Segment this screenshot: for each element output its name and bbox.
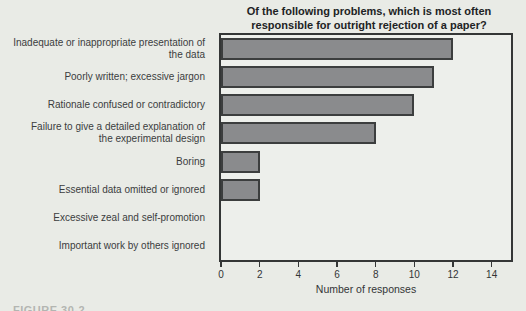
- category-label: Inadequate or inappropriate presentation…: [0, 35, 212, 63]
- category-label: Excessive zeal and self-promotion: [0, 204, 212, 232]
- bar-3: [221, 122, 376, 144]
- category-label: Boring: [0, 148, 212, 176]
- category-label-text: Inadequate or inappropriate presentation…: [13, 37, 205, 61]
- x-tick-label: 4: [283, 269, 313, 280]
- x-tick: [491, 262, 493, 267]
- bar-0: [221, 38, 453, 60]
- figure-caption-partial: FIGURE 30-2: [13, 304, 153, 311]
- category-labels: Inadequate or inappropriate presentation…: [0, 35, 212, 260]
- chart-title-line-1: Of the following problems, which is most…: [219, 4, 519, 18]
- x-tick-label: 2: [245, 269, 275, 280]
- category-label: Essential data omitted or ignored: [0, 176, 212, 204]
- figure-scan: Of the following problems, which is most…: [0, 0, 526, 311]
- x-tick: [259, 262, 261, 267]
- x-tick: [220, 262, 222, 267]
- x-tick-label: 14: [477, 269, 507, 280]
- category-label: Failure to give a detailed explanation o…: [0, 119, 212, 147]
- category-label-text: Important work by others ignored: [59, 240, 205, 252]
- x-tick: [414, 262, 416, 267]
- x-tick-label: 8: [361, 269, 391, 280]
- x-axis-label: Number of responses: [221, 283, 511, 295]
- bar-2: [221, 94, 414, 116]
- plot-area: [219, 33, 513, 262]
- category-label-text: Poorly written; excessive jargon: [64, 71, 205, 83]
- category-label-text: Failure to give a detailed explanation o…: [31, 121, 205, 145]
- bar-5: [221, 179, 260, 201]
- x-tick-label: 6: [322, 269, 352, 280]
- chart-title-line-2: responsible for outright rejection of a …: [219, 18, 519, 32]
- x-tick-label: 0: [206, 269, 236, 280]
- category-label: Poorly written; excessive jargon: [0, 63, 212, 91]
- bar-4: [221, 151, 260, 173]
- category-label: Rationale confused or contradictory: [0, 91, 212, 119]
- category-label-text: Excessive zeal and self-promotion: [53, 212, 205, 224]
- chart-title: Of the following problems, which is most…: [219, 4, 519, 32]
- x-tick: [298, 262, 300, 267]
- x-tick: [375, 262, 377, 267]
- category-label-text: Rationale confused or contradictory: [48, 99, 205, 111]
- category-label-text: Essential data omitted or ignored: [59, 184, 205, 196]
- x-tick-label: 10: [399, 269, 429, 280]
- category-label: Important work by others ignored: [0, 232, 212, 260]
- x-tick: [336, 262, 338, 267]
- bar-1: [221, 66, 434, 88]
- x-tick: [452, 262, 454, 267]
- category-label-text: Boring: [176, 156, 205, 168]
- x-tick-label: 12: [438, 269, 468, 280]
